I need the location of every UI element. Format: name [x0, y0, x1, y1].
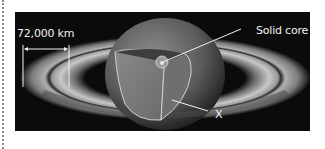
scale-label: 72,000 km — [17, 27, 74, 40]
core-label: Solid core — [256, 24, 308, 37]
saturn-diagram-panel: 72,000 km Solid core X — [15, 12, 310, 131]
scale-arrow-left-icon — [24, 47, 28, 51]
page-margin-dotted-line — [2, 0, 4, 149]
unknown-layer-label: X — [215, 108, 222, 121]
